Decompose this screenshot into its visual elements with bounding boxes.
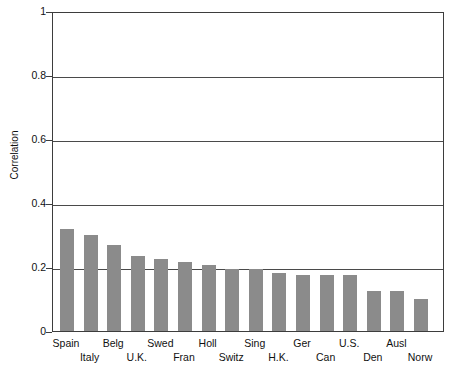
bar: [60, 229, 74, 331]
bar: [249, 269, 263, 331]
y-tick-label: 0.4: [4, 197, 46, 209]
x-tick-label: Switz: [208, 351, 254, 363]
correlation-bar-chart: Correlation 00.20.40.60.81 SpainItalyBel…: [0, 0, 451, 376]
x-tick-label: U.S.: [326, 337, 372, 349]
bar: [272, 273, 286, 331]
y-tick-label: 0.6: [4, 133, 46, 145]
bar: [343, 275, 357, 331]
bar: [131, 256, 145, 331]
bar: [107, 245, 121, 331]
y-axis-title: Correlation: [9, 110, 23, 200]
x-tick-label: Fran: [161, 351, 207, 363]
bar: [320, 275, 334, 331]
x-tick-label: Norw: [397, 351, 443, 363]
bar: [296, 275, 310, 331]
y-tick-label: 0.2: [4, 261, 46, 273]
x-tick-label: Can: [303, 351, 349, 363]
x-tick-label: Holl: [185, 337, 231, 349]
x-tick-label: H.K.: [255, 351, 301, 363]
x-tick-label: Ausl: [373, 337, 419, 349]
x-tick-label: Den: [350, 351, 396, 363]
bar: [390, 291, 404, 331]
x-tick-label: Sing: [232, 337, 278, 349]
x-tick-label: U.K.: [114, 351, 160, 363]
bar: [154, 259, 168, 331]
x-tick-label: Swed: [137, 337, 183, 349]
x-tick-label: Belg: [90, 337, 136, 349]
bar: [178, 262, 192, 331]
x-tick-label: Italy: [67, 351, 113, 363]
y-tick-label: 0.8: [4, 69, 46, 81]
x-tick-label: Ger: [279, 337, 325, 349]
bar: [84, 235, 98, 331]
bar: [367, 291, 381, 331]
bar: [414, 299, 428, 331]
y-tick-label: 0: [4, 325, 46, 337]
plot-area: [52, 12, 444, 332]
bar-series: [53, 13, 443, 331]
y-tick-mark: [46, 332, 52, 333]
bar: [225, 269, 239, 331]
x-tick-label: Spain: [43, 337, 89, 349]
bar: [202, 265, 216, 331]
y-tick-label: 1: [4, 5, 46, 17]
